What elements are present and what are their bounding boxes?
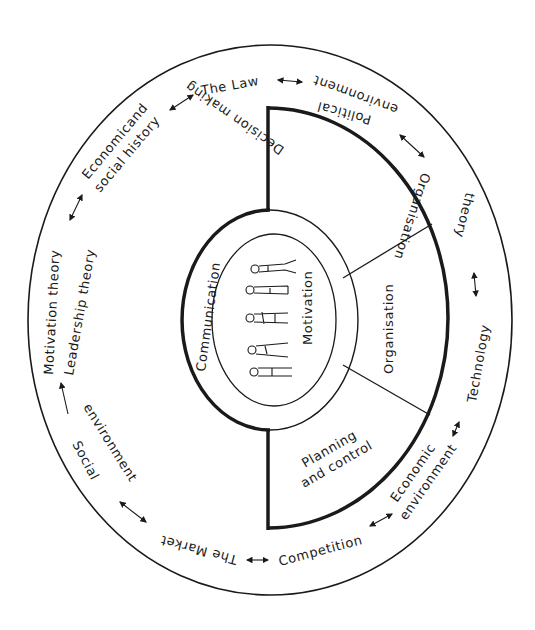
person-figure-icon bbox=[251, 260, 296, 273]
person-figure-icon bbox=[248, 343, 288, 357]
arrow-icon bbox=[61, 383, 68, 414]
communication-ring-left bbox=[182, 210, 270, 430]
outer-label-competition: Competition bbox=[277, 532, 364, 569]
person-figure-icon bbox=[250, 368, 292, 376]
motivation-core-border bbox=[212, 234, 336, 406]
double-arrow-icon bbox=[278, 80, 302, 82]
outer-label-the-market: The Market bbox=[159, 533, 240, 568]
double-arrow-icon bbox=[70, 195, 82, 220]
outer-label-technology: Technology bbox=[464, 323, 493, 404]
double-arrow-icon bbox=[474, 273, 476, 296]
outer-label-social-env: Social bbox=[69, 438, 102, 482]
people-figures bbox=[246, 260, 296, 376]
outer-label-the-law: The Law bbox=[199, 73, 260, 98]
core-label: Motivation bbox=[300, 271, 315, 345]
person-figure-icon bbox=[246, 286, 288, 294]
outer-label-organisation-theory-line2: theory bbox=[452, 191, 478, 239]
double-arrow-icon bbox=[400, 135, 424, 157]
person-figure-icon bbox=[246, 312, 288, 324]
inner-ring-label: Communication bbox=[193, 261, 223, 372]
double-arrow-icon bbox=[453, 422, 459, 436]
outer-label-leadership-theory: Leadership theory bbox=[61, 248, 98, 377]
double-arrow-icon bbox=[120, 502, 146, 522]
segment-label-organisation: Organisation bbox=[381, 284, 396, 374]
double-arrow-icon bbox=[170, 95, 193, 110]
double-arrow-icon bbox=[370, 514, 392, 526]
management-influences-diagram: Motivation Communication Decision making… bbox=[0, 0, 535, 630]
outer-label-motivation-theory: Motivation theory bbox=[41, 249, 63, 375]
outer-ring-border bbox=[28, 45, 512, 595]
segment-divider-upper bbox=[343, 224, 432, 278]
